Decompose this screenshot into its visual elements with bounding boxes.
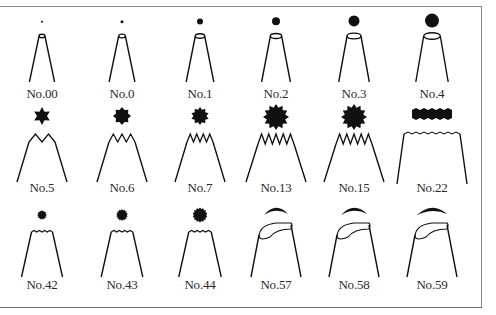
tip-label: No.2 xyxy=(238,86,314,102)
piping-tip-icon xyxy=(316,10,392,88)
tip-label: No.00 xyxy=(4,86,80,102)
frame-right-border xyxy=(481,6,482,308)
basketweave-shape-icon xyxy=(412,108,452,120)
piping-tip-icon xyxy=(4,104,80,182)
piping-tip-icon xyxy=(162,104,238,182)
tip-label: No.42 xyxy=(4,277,80,293)
piping-tip-icon xyxy=(84,104,160,182)
tip-no-3: No.3 xyxy=(316,10,392,105)
tip-no-13: No.13 xyxy=(238,104,314,199)
piping-tip-icon xyxy=(238,104,314,182)
piping-tip-icon xyxy=(4,201,80,279)
tip-no-6: No.6 xyxy=(84,104,160,199)
tip-no-15: No.15 xyxy=(316,104,392,199)
piping-tip-icon xyxy=(316,104,392,182)
frame-top-border xyxy=(0,6,482,7)
tip-no-4: No.4 xyxy=(394,10,470,105)
piping-tip-icon xyxy=(162,10,238,88)
tip-label: No.59 xyxy=(394,277,470,293)
piping-tip-icon xyxy=(238,10,314,88)
petal-shape-icon xyxy=(264,208,288,215)
tip-label: No.13 xyxy=(238,180,314,196)
tip-no-22: No.22 xyxy=(394,104,470,199)
star-shape-icon xyxy=(191,107,208,125)
tip-no-44: No.44 xyxy=(162,201,238,296)
piping-tip-icon xyxy=(316,201,392,279)
tip-label: No.15 xyxy=(316,180,392,196)
star-shape-icon xyxy=(113,107,131,125)
round-dot-icon xyxy=(121,20,124,23)
piping-tip-icon xyxy=(4,10,80,88)
piping-tip-icon xyxy=(394,104,470,182)
tip-label: No.7 xyxy=(162,180,238,196)
tip-label: No.44 xyxy=(162,277,238,293)
star-shape-icon xyxy=(263,104,289,130)
round-dot-icon xyxy=(41,21,43,23)
tip-no-1: No.1 xyxy=(162,10,238,105)
petal-shape-icon xyxy=(341,208,367,215)
tip-no-43: No.43 xyxy=(84,201,160,296)
tip-no-5: No.5 xyxy=(4,104,80,199)
petal-shape-icon xyxy=(416,208,447,216)
round-dot-icon xyxy=(197,18,203,24)
tip-label: No.5 xyxy=(4,180,80,196)
tip-no-7: No.7 xyxy=(162,104,238,199)
piping-tip-icon xyxy=(394,10,470,88)
star-shape-icon xyxy=(341,104,367,130)
piping-tip-icon xyxy=(84,10,160,88)
tip-no-58: No.58 xyxy=(316,201,392,296)
fine-star-shape-icon xyxy=(193,208,208,223)
frame-bottom-border xyxy=(0,307,482,308)
round-dot-icon xyxy=(425,14,439,28)
round-dot-icon xyxy=(272,17,280,25)
star-shape-icon xyxy=(34,107,50,125)
fine-star-shape-icon xyxy=(37,210,47,220)
round-dot-icon xyxy=(349,15,360,26)
tip-no-0: No.0 xyxy=(84,10,160,105)
tip-label: No.57 xyxy=(238,277,314,293)
tip-label: No.58 xyxy=(316,277,392,293)
tip-label: No.0 xyxy=(84,86,160,102)
tip-no-2: No.2 xyxy=(238,10,314,105)
piping-tip-icon xyxy=(394,201,470,279)
tip-no-59: No.59 xyxy=(394,201,470,296)
tip-label: No.6 xyxy=(84,180,160,196)
tip-no-57: No.57 xyxy=(238,201,314,296)
piping-tip-icon xyxy=(238,201,314,279)
piping-tip-icon xyxy=(84,201,160,279)
piping-tip-icon xyxy=(162,201,238,279)
tip-no-42: No.42 xyxy=(4,201,80,296)
fine-star-shape-icon xyxy=(116,209,128,221)
tip-label: No.3 xyxy=(316,86,392,102)
tip-label: No.22 xyxy=(394,180,470,196)
tip-label: No.1 xyxy=(162,86,238,102)
tip-no-00: No.00 xyxy=(4,10,80,105)
tip-label: No.4 xyxy=(394,86,470,102)
tip-label: No.43 xyxy=(84,277,160,293)
